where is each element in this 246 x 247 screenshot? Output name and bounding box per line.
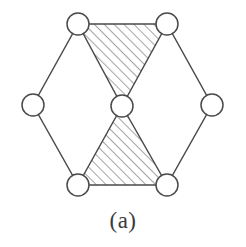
- edge-left-to-bottom-left: [33, 105, 78, 185]
- graph-node-bottom-right[interactable]: [156, 174, 178, 196]
- graph-node-top-right[interactable]: [156, 13, 178, 35]
- figure-caption: (a): [0, 206, 246, 236]
- graph-node-right[interactable]: [201, 94, 223, 116]
- figure-container: (a): [0, 0, 246, 247]
- edge-right-to-top-right: [167, 24, 212, 105]
- graph-node-top-left[interactable]: [67, 13, 89, 35]
- graph-node-left[interactable]: [22, 94, 44, 116]
- edge-bottom-right-to-right: [167, 105, 212, 185]
- shaded-face-upper-triangle: [78, 24, 167, 106]
- edge-top-left-to-left: [33, 24, 78, 105]
- graph-node-bottom-left[interactable]: [67, 174, 89, 196]
- graph-node-center[interactable]: [111, 95, 133, 117]
- shaded-face-lower-triangle: [78, 106, 167, 185]
